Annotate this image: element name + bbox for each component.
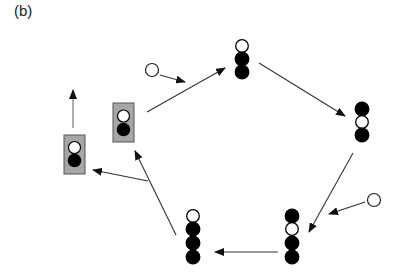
filled-ball (285, 236, 299, 250)
incoming-ball-top (146, 64, 159, 77)
cycle-diagram (0, 0, 400, 272)
empty-ball (118, 110, 130, 122)
arrows (73, 63, 365, 252)
arrow-right-to-bottom-right (309, 153, 353, 232)
arrow-box-to-top (147, 68, 225, 112)
arrow-to-left-box (93, 170, 148, 181)
arrow-top-to-right (259, 63, 345, 116)
filled-ball (285, 209, 299, 223)
filled-ball (285, 250, 299, 264)
arrow-incoming-top (160, 75, 185, 82)
arrow-incoming-right (329, 202, 365, 214)
filled-ball (186, 236, 200, 250)
filled-ball (117, 123, 131, 137)
top-stack (235, 40, 249, 79)
bottom-left-stack (186, 210, 200, 264)
filled-ball (235, 65, 249, 79)
filled-ball (235, 52, 249, 66)
arrow-bottom-left-to-middle-box (135, 151, 176, 235)
empty-ball (187, 210, 200, 223)
empty-ball (69, 142, 81, 154)
empty-ball (356, 116, 369, 129)
empty-ball (286, 223, 299, 236)
middle-box (113, 103, 134, 142)
filled-ball (186, 250, 200, 264)
filled-ball (355, 102, 369, 116)
bottom-right-stack (285, 209, 299, 264)
right-stack (355, 102, 369, 142)
filled-ball (186, 222, 200, 236)
empty-ball (236, 40, 249, 53)
left-box (64, 135, 85, 174)
filled-ball (68, 154, 82, 168)
incoming-ball-right (368, 194, 381, 207)
filled-ball (355, 128, 369, 142)
